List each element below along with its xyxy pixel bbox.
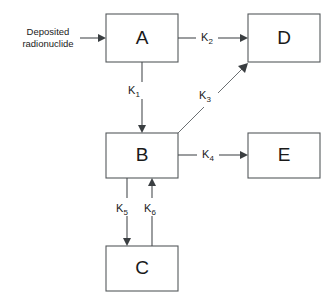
compartment-box-e[interactable]: E [248, 133, 320, 178]
transfer-arrow-k1: K1 [128, 62, 146, 133]
transfer-label-k3-subscript: 3 [206, 95, 211, 104]
transfer-label-k6-subscript: 6 [151, 208, 156, 217]
transfer-label-k4: K4 [202, 148, 214, 163]
transfer-arrow-k3: K3 [178, 63, 248, 133]
compartment-label-b: B [136, 144, 149, 165]
transfer-label-k4-subscript: 4 [209, 154, 214, 163]
transfer-label-k5: K5 [116, 202, 128, 217]
diagram-canvas: Deposited radionuclide A D B E C [0, 0, 333, 303]
compartment-box-c[interactable]: C [106, 246, 178, 291]
compartment-model-svg: A D B E C K2 K1 [0, 0, 333, 303]
transfer-arrow-k2: K2 [178, 31, 248, 46]
transfer-label-k1-subscript: 1 [135, 90, 140, 99]
input-arrow [80, 34, 106, 42]
transfer-label-k2: K2 [201, 31, 213, 46]
compartment-label-c: C [135, 257, 149, 278]
transfer-arrow-k6: K6 [144, 178, 156, 246]
transfer-arrow-k5: K5 [116, 178, 131, 246]
compartment-label-a: A [136, 27, 149, 48]
transfer-label-k1: K1 [128, 84, 140, 99]
compartment-label-e: E [278, 144, 291, 165]
compartment-box-d[interactable]: D [248, 14, 320, 62]
transfer-label-k6: K6 [144, 202, 156, 217]
compartment-box-a[interactable]: A [106, 14, 178, 62]
compartment-label-d: D [277, 27, 291, 48]
transfer-label-k5-subscript: 5 [123, 208, 128, 217]
transfer-arrow-k4: K4 [178, 148, 248, 163]
transfer-label-k3: K3 [199, 89, 211, 104]
compartment-box-b[interactable]: B [106, 133, 178, 178]
transfer-label-k2-subscript: 2 [208, 37, 213, 46]
